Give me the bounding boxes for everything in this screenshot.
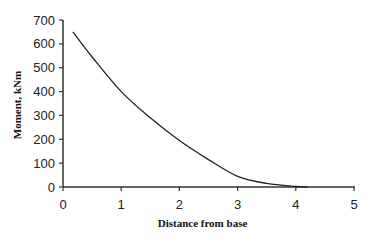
y-tick-label: 100 — [33, 156, 55, 171]
moment-curve — [73, 32, 308, 187]
x-tick-label: 2 — [176, 197, 183, 212]
y-tick-label: 300 — [33, 108, 55, 123]
y-tick-label: 200 — [33, 132, 55, 147]
x-tick-label: 0 — [59, 197, 66, 212]
y-tick-label: 500 — [33, 60, 55, 75]
y-axis-title: Moment, kNm — [11, 71, 23, 139]
y-tick-label: 700 — [33, 13, 55, 28]
x-tick-label: 5 — [350, 197, 357, 212]
x-axis-title: Distance from base — [158, 217, 248, 229]
moment-chart: 0100200300400500600700012345Distance fro… — [0, 0, 368, 241]
y-tick-label: 400 — [33, 84, 55, 99]
x-tick-label: 4 — [292, 197, 299, 212]
x-tick-label: 3 — [234, 197, 241, 212]
y-tick-label: 0 — [48, 180, 55, 195]
y-tick-label: 600 — [33, 36, 55, 51]
x-tick-label: 1 — [118, 197, 125, 212]
